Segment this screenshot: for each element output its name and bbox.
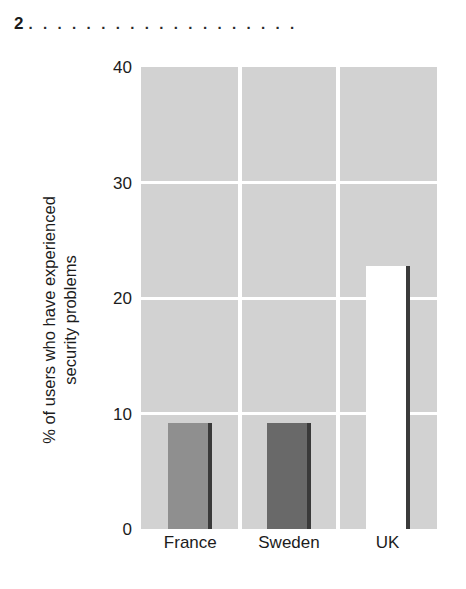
y-axis-title: % of users who have experienced security… [38,110,82,530]
bar-edge [307,423,311,529]
bar-chart: 2 . . . . . . . . . . . . . . . . . . . … [0,0,466,589]
bar-body [168,423,212,529]
bar-sweden [267,423,311,529]
plot-area [141,67,437,529]
bar-uk [366,266,410,529]
bar-france [168,423,212,529]
bar-edge [406,266,410,529]
caption-leader-dots: . . . . . . . . . . . . . . . . . . . [28,16,297,31]
y-tick-label: 40 [86,59,132,76]
figure-caption: 2 . . . . . . . . . . . . . . . . . . . [14,14,434,40]
x-axis-tick-labels: FranceSwedenUK [141,534,437,562]
y-axis-tick-labels: 010203040 [86,67,132,529]
bar-body [267,423,311,529]
bar-body [366,266,410,529]
x-tick-label-sweden: Sweden [258,534,319,551]
y-tick-label: 10 [86,405,132,422]
gridline-vertical [238,67,242,529]
gridline-vertical [336,67,340,529]
y-tick-label: 0 [86,521,132,538]
gridline-horizontal [141,181,437,184]
x-tick-label-uk: UK [376,534,400,551]
x-tick-label-france: France [164,534,217,551]
y-tick-label: 30 [86,174,132,191]
figure-number: 2 [14,14,23,34]
y-tick-label: 20 [86,290,132,307]
bar-edge [208,423,212,529]
